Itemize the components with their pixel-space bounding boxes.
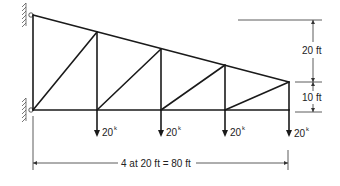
svg-text:k: k	[306, 126, 310, 132]
load-2: 20 k	[158, 110, 182, 138]
svg-text:k: k	[178, 125, 182, 131]
svg-text:k: k	[114, 125, 118, 131]
diagonal-1	[33, 32, 97, 110]
bottom-wall-support	[22, 98, 33, 122]
diagonal-4	[225, 82, 289, 110]
svg-text:20: 20	[166, 127, 178, 138]
svg-text:k: k	[242, 125, 246, 131]
svg-text:4 at 20 ft = 80 ft: 4 at 20 ft = 80 ft	[121, 158, 191, 169]
load-1: 20 k	[94, 110, 118, 138]
arrow-down-icon	[158, 130, 164, 137]
svg-text:20 ft: 20 ft	[302, 45, 322, 56]
load-3: 20 k	[222, 110, 246, 138]
svg-text:20: 20	[230, 127, 242, 138]
diagonal-3	[161, 65, 225, 110]
arrow-down-icon	[222, 130, 228, 137]
svg-text:20: 20	[294, 128, 306, 139]
arrow-down-icon	[94, 130, 100, 137]
truss-members	[33, 15, 289, 110]
arrow-down-icon	[286, 130, 292, 137]
top-wall-support	[22, 3, 33, 27]
truss-diagram: 20 k 20 k 20 k 20 k 20 ft 10 ft	[0, 0, 340, 186]
svg-text:10 ft: 10 ft	[302, 92, 322, 103]
diagonal-2	[97, 49, 161, 110]
svg-text:20: 20	[102, 127, 114, 138]
load-4: 20 k	[286, 110, 310, 139]
